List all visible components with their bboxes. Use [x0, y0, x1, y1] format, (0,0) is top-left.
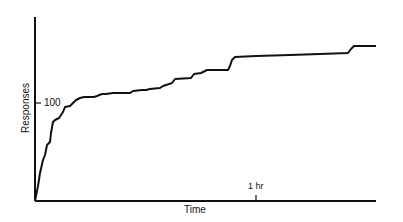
- x-tick-label-1hr: 1 hr: [248, 181, 264, 191]
- y-axis-label: Responses: [20, 78, 34, 138]
- x-axis-label: Time: [184, 204, 206, 215]
- y-tick-label-100: 100: [44, 97, 61, 108]
- data-line: [35, 46, 376, 201]
- chart-canvas: [0, 0, 403, 222]
